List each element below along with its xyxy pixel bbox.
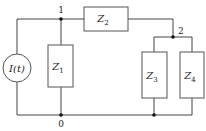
wire-top-right xyxy=(128,19,173,37)
node-2-label: 2 xyxy=(178,26,184,36)
current-source: I(t) xyxy=(3,54,31,82)
z4-sub: 4 xyxy=(191,76,196,84)
z1-sub: 1 xyxy=(59,67,63,75)
impedance-z4: Z4 xyxy=(180,52,204,98)
impedance-z3: Z3 xyxy=(142,52,167,98)
node-1-label: 1 xyxy=(58,5,64,15)
node-0-dot xyxy=(59,113,63,117)
wire-node2-branches xyxy=(154,37,192,52)
z2-sub: 2 xyxy=(104,19,108,27)
impedance-z2: Z2 xyxy=(84,7,128,31)
node-bottom-right-dot xyxy=(152,113,156,117)
z3-sub: 3 xyxy=(153,76,157,84)
impedance-z1: Z1 xyxy=(48,45,73,87)
node-1-dot xyxy=(59,17,63,21)
node-2-dot xyxy=(171,35,175,39)
circuit-diagram: I(t) Z1 Z2 Z3 Z4 1 2 0 xyxy=(0,0,206,131)
current-source-label: I(t) xyxy=(8,63,25,74)
node-0-label: 0 xyxy=(58,119,64,129)
